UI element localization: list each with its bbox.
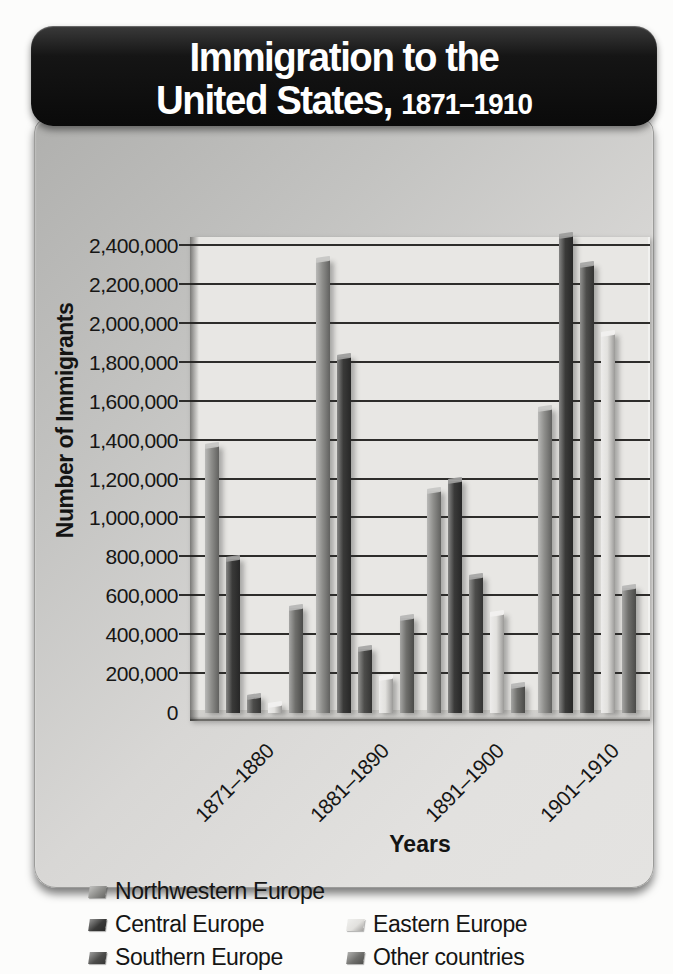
- bar-cap: [289, 604, 303, 611]
- x-tick-labels: 1871–18801881–18901891–19001901–1910: [190, 721, 650, 846]
- bar-groups: [198, 237, 642, 713]
- y-tick-label: 600,000: [35, 584, 178, 608]
- bar-eastern-europe-1891-1900: [490, 614, 504, 713]
- y-tick-label: 1,200,000: [35, 468, 178, 492]
- bar-cap: [226, 555, 240, 562]
- chart-panel: Number of Immigrants 2,400,0002,200,0002…: [34, 118, 654, 888]
- bar-cap: [358, 645, 372, 652]
- legend-item-central-europe: Central Europe: [89, 911, 347, 938]
- legend-swatch-other-countries: [346, 952, 365, 964]
- bar-cap: [316, 256, 330, 263]
- bar-cap: [337, 353, 351, 360]
- x-axis-title: Years: [190, 831, 650, 858]
- bar-southern-europe-1891-1900: [469, 577, 483, 713]
- bar-group-1901-1910: [538, 237, 636, 713]
- legend-swatch-northwestern-europe: [88, 886, 107, 898]
- title-line-1: Immigration to the: [44, 35, 645, 79]
- y-tick-label: 800,000: [35, 545, 178, 569]
- x-tick-label-1871-1880: 1871–1880: [190, 739, 278, 827]
- bar-cap: [580, 261, 594, 268]
- x-tick-label-1891-1900: 1891–1900: [420, 739, 508, 827]
- chart-card: Immigration to the United States, 1871–1…: [31, 26, 657, 888]
- y-tick-labels: 2,400,0002,200,0002,000,0001,800,0001,60…: [35, 237, 178, 721]
- chart-title-bar: Immigration to the United States, 1871–1…: [31, 26, 657, 126]
- legend-label: Northwestern Europe: [115, 878, 325, 905]
- bar-eastern-europe-1881-1890: [379, 678, 393, 713]
- title-line-2-years: 1871–1910: [401, 88, 532, 120]
- y-tick-label: 0: [35, 701, 178, 725]
- bar-group-1871-1880: [205, 237, 303, 713]
- y-tick-label: 1,800,000: [35, 351, 178, 375]
- bar-northwestern-europe-1891-1900: [427, 491, 441, 713]
- legend-item-northwestern-europe: Northwestern Europe: [89, 878, 347, 905]
- x-tick-label-1901-1910: 1901–1910: [535, 739, 623, 827]
- bar-other-countries-1871-1880: [289, 608, 303, 713]
- bar-cap: [448, 477, 462, 484]
- bar-eastern-europe-1871-1880: [268, 705, 282, 713]
- legend-swatch-central-europe: [88, 919, 107, 931]
- bar-central-europe-1901-1910: [559, 236, 573, 713]
- title-line-2: United States, 1871–1910: [44, 79, 645, 125]
- bar-cap: [268, 701, 282, 708]
- bar-southern-europe-1881-1890: [358, 649, 372, 713]
- bar-cap: [601, 330, 615, 337]
- y-tick-label: 200,000: [35, 662, 178, 686]
- y-tick-label: 2,200,000: [35, 273, 178, 297]
- bar-cap: [427, 487, 441, 494]
- bar-cap: [247, 693, 261, 700]
- bar-southern-europe-1871-1880: [247, 697, 261, 713]
- bar-central-europe-1881-1890: [337, 357, 351, 713]
- y-tick-label: 400,000: [35, 623, 178, 647]
- bar-northwestern-europe-1881-1890: [316, 260, 330, 713]
- plot-area: [190, 237, 650, 721]
- bar-other-countries-1901-1910: [622, 588, 636, 713]
- y-tick-label: 1,600,000: [35, 390, 178, 414]
- legend-label: Other countries: [373, 944, 524, 971]
- bar-central-europe-1871-1880: [226, 559, 240, 713]
- bar-cap: [622, 584, 636, 591]
- bar-group-1881-1890: [316, 237, 414, 713]
- legend-item-other-countries: Other countries: [347, 944, 615, 971]
- bar-cap: [205, 442, 219, 449]
- bar-northwestern-europe-1901-1910: [538, 409, 552, 713]
- bar-other-countries-1891-1900: [511, 686, 525, 713]
- bar-central-europe-1891-1900: [448, 481, 462, 713]
- bar-cap: [538, 405, 552, 412]
- y-tick-label: 1,000,000: [35, 506, 178, 530]
- x-tick-label-1881-1890: 1881–1890: [305, 739, 393, 827]
- bar-other-countries-1881-1890: [400, 618, 414, 713]
- bar-northwestern-europe-1871-1880: [205, 446, 219, 713]
- bar-southern-europe-1901-1910: [580, 265, 594, 713]
- bar-cap: [511, 682, 525, 689]
- legend-item-eastern-europe: Eastern Europe: [347, 911, 615, 938]
- bar-cap: [490, 610, 504, 617]
- legend-label: Southern Europe: [115, 944, 283, 971]
- title-line-2-main: United States,: [156, 78, 392, 122]
- y-tick-label: 1,400,000: [35, 429, 178, 453]
- legend-swatch-eastern-europe: [346, 919, 365, 931]
- bar-cap: [469, 573, 483, 580]
- bar-cap: [379, 674, 393, 681]
- legend-label: Central Europe: [115, 911, 264, 938]
- y-tick-label: 2,000,000: [35, 312, 178, 336]
- bar-cap: [559, 232, 573, 239]
- legend: Northwestern Europe Central Europe South…: [89, 875, 615, 974]
- bar-group-1891-1900: [427, 237, 525, 713]
- y-tick-label: 2,400,000: [35, 234, 178, 258]
- bar-cap: [400, 614, 414, 621]
- legend-label: Eastern Europe: [373, 911, 527, 938]
- legend-swatch-southern-europe: [88, 952, 107, 964]
- legend-item-southern-europe: Southern Europe: [89, 944, 347, 971]
- bar-eastern-europe-1901-1910: [601, 334, 615, 713]
